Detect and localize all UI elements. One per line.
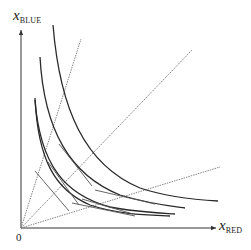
diagonal-ray (21, 50, 192, 228)
curve-outer (53, 25, 218, 201)
origin-label: 0 (16, 231, 22, 243)
steep-ray (21, 39, 81, 228)
curve-4 (35, 98, 170, 216)
y-axis-var: x (13, 7, 20, 23)
tangent-3 (48, 162, 79, 205)
tangent-4 (95, 190, 155, 204)
tangent-2 (35, 171, 69, 211)
tangent-1 (59, 144, 92, 186)
y-axis-subscript: BLUE (20, 16, 42, 25)
x-axis-var: x (219, 217, 226, 233)
diagram-svg (0, 0, 251, 250)
y-axis-label: xBLUE (13, 6, 41, 25)
expansion-rays (21, 39, 220, 228)
indifference-curves (35, 25, 218, 216)
x-axis-subscript: RED (226, 226, 243, 235)
diagram-canvas: xBLUE xRED 0 (0, 0, 251, 250)
x-axis-label: xRED (219, 216, 242, 235)
